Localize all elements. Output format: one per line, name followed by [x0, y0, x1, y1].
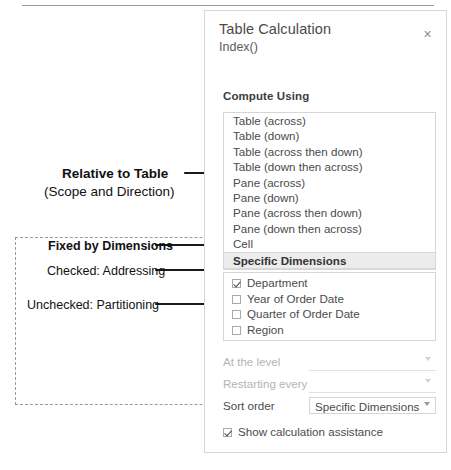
dialog-title: Table Calculation	[219, 21, 331, 37]
dimension-label: Department	[247, 276, 308, 289]
annotation-unchecked-partitioning: Unchecked: Partitioning	[27, 298, 159, 312]
compute-using-label: Compute Using	[223, 90, 309, 102]
dimension-row[interactable]: Department	[224, 275, 435, 291]
compute-option[interactable]: Pane (across then down)	[224, 205, 435, 220]
restarting-every-row: Restarting every	[223, 375, 436, 393]
annotation-fixed-by-dimensions: Fixed by Dimensions	[48, 239, 173, 253]
show-calculation-assistance-label: Show calculation assistance	[238, 425, 383, 438]
sort-order-value: Specific Dimensions	[315, 400, 419, 413]
dimension-row[interactable]: Region	[224, 322, 435, 338]
page-top-rule	[22, 5, 434, 6]
annotation-unchecked-prefix: Unchecked:	[27, 298, 93, 312]
chevron-down-icon	[424, 402, 430, 406]
annotation-checked-addressing: Checked: Addressing	[47, 264, 165, 278]
dimension-row[interactable]: Quarter of Order Date	[224, 306, 435, 322]
annotation-checked-emphasis: Addressing	[103, 264, 166, 278]
restarting-every-label: Restarting every	[223, 377, 307, 390]
restarting-every-dropdown	[309, 375, 436, 393]
table-calculation-dialog: Table Calculation Index() × Compute Usin…	[204, 10, 447, 453]
compute-option-selected[interactable]: Specific Dimensions	[224, 252, 435, 269]
sort-order-dropdown[interactable]: Specific Dimensions	[309, 397, 436, 414]
compute-option[interactable]: Pane (across)	[224, 175, 435, 190]
at-the-level-row: At the level	[223, 353, 436, 371]
dialog-subtitle: Index()	[219, 40, 258, 54]
dimension-row[interactable]: Year of Order Date	[224, 291, 435, 307]
compute-option[interactable]: Table (down)	[224, 128, 435, 143]
show-calculation-assistance-checkbox[interactable]: Show calculation assistance	[223, 425, 383, 438]
checkbox-icon	[223, 428, 232, 437]
dimension-label: Quarter of Order Date	[247, 307, 360, 320]
chevron-down-icon	[425, 357, 431, 361]
at-the-level-label: At the level	[223, 355, 280, 368]
compute-option[interactable]: Table (down then across)	[224, 159, 435, 174]
compute-option[interactable]: Table (across then down)	[224, 144, 435, 159]
chevron-down-icon	[425, 379, 431, 383]
annotation-relative-to-table-subtitle: (Scope and Direction)	[44, 184, 175, 199]
at-the-level-dropdown	[309, 353, 436, 371]
compute-option[interactable]: Pane (down)	[224, 190, 435, 205]
checkbox-icon[interactable]	[232, 279, 241, 288]
compute-using-list[interactable]: Table (across)Table (down)Table (across …	[223, 112, 436, 270]
checkbox-icon[interactable]	[232, 310, 241, 319]
checkbox-icon[interactable]	[232, 326, 241, 335]
dimension-label: Year of Order Date	[247, 292, 344, 305]
annotation-relative-to-table-title: Relative to Table	[62, 166, 168, 181]
annotation-checked-prefix: Checked:	[47, 264, 100, 278]
checkbox-icon[interactable]	[232, 295, 241, 304]
dimension-label: Region	[247, 323, 284, 336]
sort-order-label: Sort order	[223, 399, 275, 412]
close-icon[interactable]: ×	[420, 27, 435, 42]
compute-option[interactable]: Table (across)	[224, 113, 435, 128]
compute-option[interactable]: Cell	[224, 236, 435, 251]
specific-dimensions-list[interactable]: DepartmentYear of Order DateQuarter of O…	[223, 272, 436, 341]
annotation-unchecked-emphasis: Partitioning	[97, 298, 160, 312]
compute-option[interactable]: Pane (down then across)	[224, 221, 435, 236]
sort-order-row: Sort order Specific Dimensions	[223, 397, 436, 415]
